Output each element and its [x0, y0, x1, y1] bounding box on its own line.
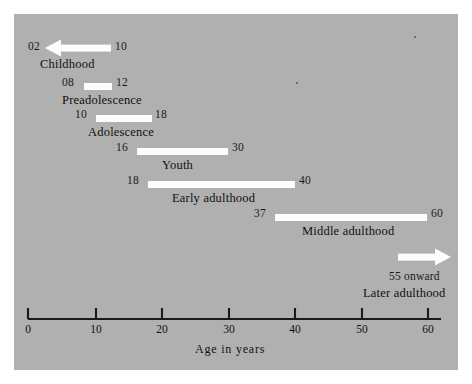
stage-label-later-adulthood: Later adulthood: [363, 286, 446, 301]
early-adulthood-end-value: 40: [299, 174, 311, 186]
preadolescence-start-value: 08: [62, 76, 74, 88]
stage-bar-adolescence: [96, 115, 152, 122]
axis-title: Age in years: [195, 342, 265, 357]
stage-label-youth: Youth: [162, 158, 193, 173]
axis-tick-label-0: 0: [25, 323, 31, 335]
stage-label-middle-adulthood: Middle adulthood: [302, 224, 394, 239]
axis-tick-label-60: 60: [422, 323, 434, 335]
childhood-start-value: 02: [28, 40, 40, 52]
later-adulthood-note: 55 onward: [389, 270, 440, 282]
stage-label-adolescence: Adolescence: [88, 125, 154, 140]
speck: [414, 36, 416, 38]
speck: [296, 82, 298, 84]
early-adulthood-start-value: 18: [127, 174, 139, 186]
preadolescence-end-value: 12: [116, 76, 128, 88]
stage-label-early-adulthood: Early adulthood: [172, 191, 255, 206]
stage-label-preadolescence: Preadolescence: [62, 93, 142, 108]
youth-end-value: 30: [232, 141, 244, 153]
stage-bar-youth: [137, 148, 228, 155]
axis-tick-label-30: 30: [223, 323, 235, 335]
adolescence-end-value: 18: [155, 108, 167, 120]
childhood-arrow-left-icon: [45, 39, 111, 57]
adolescence-start-value: 10: [75, 108, 87, 120]
stage-label-childhood: Childhood: [40, 57, 95, 72]
axis-tick-label-40: 40: [289, 323, 301, 335]
youth-start-value: 16: [116, 141, 128, 153]
later-adulthood-arrow-right-icon: [398, 248, 451, 266]
stage-bar-middle-adulthood: [275, 214, 427, 221]
axis-tick-label-20: 20: [156, 323, 168, 335]
stage-bar-preadolescence: [84, 83, 112, 90]
middle-adulthood-start-value: 37: [254, 207, 266, 219]
axis-tick-label-10: 10: [90, 323, 102, 335]
age-stages-figure: 02 10 Childhood 08 12 Preadolescence 10 …: [14, 14, 458, 370]
stage-bar-early-adulthood: [148, 181, 295, 188]
middle-adulthood-end-value: 60: [431, 207, 443, 219]
axis-tick-label-50: 50: [356, 323, 368, 335]
childhood-end-value: 10: [115, 40, 127, 52]
